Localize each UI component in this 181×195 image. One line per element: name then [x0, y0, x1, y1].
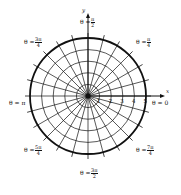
angle-label-pi-over-4: θ =π4 [136, 37, 151, 48]
x-axis-label: x [166, 88, 170, 94]
angle-label-pi: θ = π [9, 100, 25, 106]
tick-mark [129, 51, 133, 55]
radial-tick-labels: 12345 [97, 98, 147, 104]
x-axis-arrow-icon [160, 94, 165, 98]
angle-label-3pi-over-4: θ =3π4 [24, 37, 42, 48]
radial-tick-label: 2 [109, 98, 113, 104]
radial-tick-label: 1 [97, 98, 101, 104]
polar-coordinate-grid: 12345 x y [0, 0, 181, 195]
tick-mark [117, 41, 120, 45]
tick-mark [57, 146, 60, 150]
tick-mark [138, 65, 142, 68]
y-axis-label: y [81, 7, 86, 14]
tick-mark [33, 65, 37, 68]
angle-label-0: θ = 0 [152, 100, 168, 106]
tick-mark [43, 137, 47, 141]
angle-label-pi-over-2: θ =π2 [80, 17, 95, 28]
radial-tick-label: 4 [132, 98, 136, 104]
origin-point [86, 94, 91, 99]
tick-mark [129, 137, 133, 141]
tick-mark [138, 125, 142, 128]
tick-mark [43, 51, 47, 55]
tick-mark [33, 125, 37, 128]
tick-mark [57, 41, 60, 45]
angle-label-3pi-over-2: θ =3π2 [80, 168, 98, 179]
angle-label-7pi-over-4: θ =7π4 [136, 145, 154, 156]
tick-mark [117, 146, 120, 150]
radial-tick-label: 5 [144, 98, 148, 104]
radial-tick-label: 3 [120, 98, 124, 104]
angle-label-5pi-over-4: θ =5π4 [24, 145, 42, 156]
